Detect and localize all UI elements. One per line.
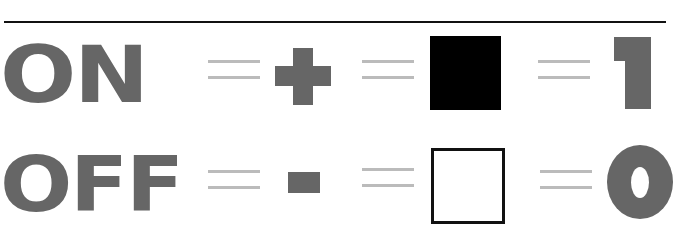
equals-sign [208,170,260,189]
digit-one: 1 [614,37,651,109]
equals-sign [208,60,260,79]
minus-icon: - [288,172,320,193]
plus-icon [275,48,331,105]
off-label: OFF [0,147,182,223]
top-rule [4,21,666,23]
filled-square-icon [430,36,501,110]
on-label: ON [0,36,147,114]
digit-zero: 0 [607,145,673,219]
empty-square-icon [431,148,505,224]
equals-sign [362,168,414,187]
equals-sign [540,170,592,189]
equals-sign [362,60,414,79]
equals-sign [538,60,590,79]
